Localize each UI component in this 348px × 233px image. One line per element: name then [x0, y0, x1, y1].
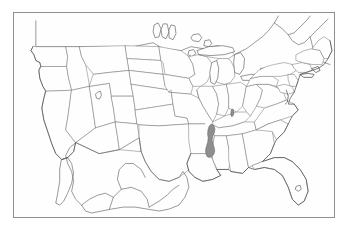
map-frame	[13, 12, 335, 218]
mexico-interior-line-c	[149, 185, 179, 207]
highlighted-region-sliver	[231, 109, 234, 117]
state-florida	[253, 158, 309, 206]
canada-lake-a-icon	[153, 23, 161, 38]
state-colorado	[111, 96, 137, 124]
state-montana	[80, 46, 130, 75]
mexico-interior-line-a	[109, 187, 149, 209]
canada-lake-d-icon	[191, 34, 202, 42]
us-map-svg	[14, 13, 334, 217]
baja-california-icon	[56, 158, 74, 206]
lake-huron-icon	[234, 53, 245, 75]
mexico-interior-line-d	[82, 193, 114, 205]
figure-root	[0, 0, 348, 233]
state-north-dakota	[125, 46, 161, 61]
canada-quebec-border	[274, 16, 310, 35]
state-new-mexico	[115, 122, 141, 152]
canada-lake-c-icon	[169, 25, 176, 40]
canada-lake-e-icon	[204, 40, 212, 47]
mexico-interior-line-b	[117, 164, 145, 190]
state-new-england-north	[296, 49, 324, 65]
state-washington	[31, 47, 68, 67]
canada-lake-b-icon	[161, 24, 169, 39]
